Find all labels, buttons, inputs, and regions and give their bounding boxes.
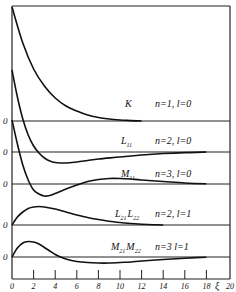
zero-labels: 0 0 0 0 0 bbox=[3, 116, 8, 262]
label-M11-quantum: n=3, l=0 bbox=[155, 168, 191, 179]
x-tick-label: 10 bbox=[116, 282, 124, 291]
x-tick-label: 8 bbox=[96, 282, 100, 291]
x-tick-label: 14 bbox=[159, 282, 167, 291]
x-tick-label: 0 bbox=[10, 282, 14, 291]
svg-text:0: 0 bbox=[3, 147, 8, 157]
svg-text:0: 0 bbox=[3, 252, 8, 262]
radial-wavefunction-chart: 0 0 0 0 0 02468101214161820ξ K n=1, l=0 … bbox=[0, 0, 236, 292]
label-K: K bbox=[124, 98, 133, 109]
label-L11: L11 bbox=[120, 135, 132, 148]
x-tick-label: 4 bbox=[53, 282, 57, 291]
x-tick-label: 6 bbox=[75, 282, 79, 291]
x-tick-label: 12 bbox=[138, 282, 146, 291]
label-L11-quantum: n=2, l=0 bbox=[155, 135, 191, 146]
label-M21-M22: M21M22 bbox=[110, 241, 141, 254]
x-axis-label: ξ bbox=[215, 280, 220, 292]
svg-text:0: 0 bbox=[3, 179, 8, 189]
curve-L11 bbox=[12, 70, 206, 163]
label-L2x-quantum: n=2, l=1 bbox=[155, 208, 191, 219]
svg-text:0: 0 bbox=[3, 116, 8, 126]
svg-text:0: 0 bbox=[3, 220, 8, 230]
x-tick-label: 2 bbox=[32, 282, 36, 291]
label-K-quantum: n=1, l=0 bbox=[155, 98, 191, 109]
x-tick-label: 16 bbox=[181, 282, 189, 291]
label-L21-L22: L21L22 bbox=[114, 208, 139, 221]
x-tick-label: 20 bbox=[226, 282, 234, 291]
x-tick-label: 18 bbox=[202, 282, 210, 291]
label-M2x-quantum: n=3 l=1 bbox=[155, 241, 189, 252]
x-ticks: 02468101214161820ξ bbox=[10, 270, 234, 292]
curve-K bbox=[12, 7, 142, 121]
curve-L21_L22 bbox=[12, 207, 163, 226]
